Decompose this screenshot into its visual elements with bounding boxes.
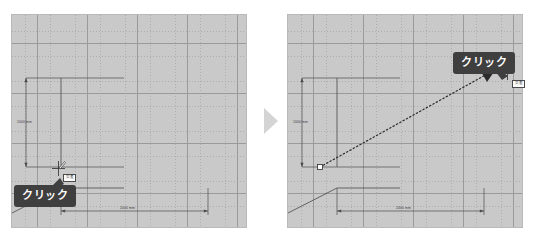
vertical-dimension-label: 1000 mm	[293, 121, 308, 124]
drag-start-marker	[318, 165, 323, 170]
tutorial-stage: 1000 mm 2000 mm 交差 クリック	[0, 0, 549, 244]
click-callout-step-2: クリック	[453, 52, 515, 74]
vertical-dimension-label: 1000 mm	[17, 121, 32, 124]
vertical-dimension	[302, 78, 400, 167]
dimension-arrowhead	[337, 209, 341, 212]
vertical-dimension	[26, 78, 124, 167]
object-outline	[288, 78, 400, 213]
drag-line	[320, 73, 489, 167]
horizontal-dimension-label: 2000 mm	[120, 207, 135, 210]
dimension-arrowhead	[24, 163, 27, 167]
dimension-arrowhead	[61, 209, 65, 212]
dimension-arrowhead	[204, 209, 208, 212]
dimension-arrowhead	[300, 78, 303, 82]
dimension-arrowhead	[480, 209, 484, 212]
drawing-geometry-layer	[288, 15, 522, 227]
horizontal-dimension	[337, 188, 484, 215]
click-callout-step-1: クリック	[14, 185, 76, 207]
horizontal-dimension-label: 2000 mm	[396, 207, 411, 210]
dimension-arrowhead	[24, 78, 27, 82]
snap-tooltip: 交差	[512, 80, 525, 88]
dimension-arrowhead	[300, 163, 303, 167]
snap-tooltip: 交差	[63, 174, 76, 182]
cad-panel-step-2[interactable]: 1000 mm 2000 mm	[287, 14, 523, 228]
horizontal-dimension	[61, 188, 208, 215]
triangle-right-icon	[264, 108, 278, 134]
